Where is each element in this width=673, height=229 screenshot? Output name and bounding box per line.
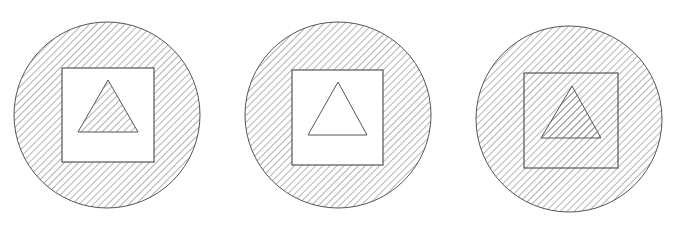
figure-canvas xyxy=(0,0,673,229)
diagram-panel-1 xyxy=(14,22,200,208)
diagram-panel-3 xyxy=(476,26,662,212)
diagram-panel-2 xyxy=(245,22,431,208)
